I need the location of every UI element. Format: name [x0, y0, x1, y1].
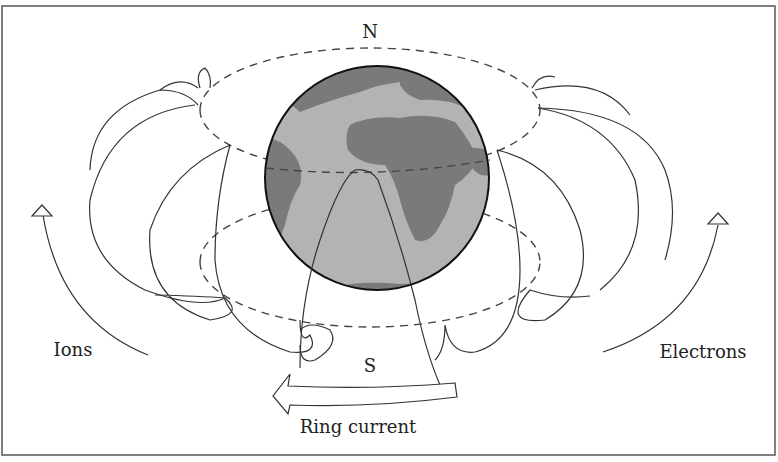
north-label: N — [362, 21, 378, 42]
ring-current-label: Ring current — [300, 416, 417, 437]
electrons-label: Electrons — [659, 341, 746, 362]
south-label: S — [364, 355, 376, 376]
ions-label: Ions — [54, 339, 93, 360]
ring-current-diagram: N S Ions Electrons Ring current — [0, 0, 778, 462]
